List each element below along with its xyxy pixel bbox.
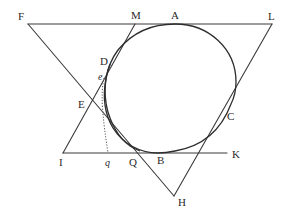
label-K: K [232,148,240,160]
label-D: D [100,55,108,67]
label-H: H [178,196,186,208]
label-M: M [131,9,141,21]
oval-curve [104,24,236,153]
label-q: q [105,157,110,168]
label-I: I [59,156,63,168]
label-L: L [268,10,275,22]
line-FH [28,24,174,196]
label-Q: Q [129,156,137,168]
label-A: A [171,9,179,21]
label-e: e [98,71,103,82]
geometry-diagram: F M A L D e E C I q Q B K H [0,0,292,219]
label-F: F [18,10,24,22]
line-LH [174,24,272,196]
label-C: C [227,110,234,122]
inner-arc [105,64,140,151]
label-B: B [157,154,164,166]
label-E: E [78,98,85,110]
